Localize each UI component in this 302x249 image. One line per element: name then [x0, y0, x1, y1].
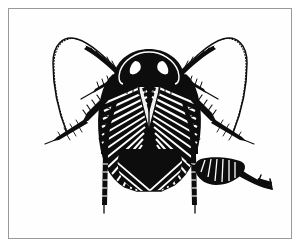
cockroach-illustration	[9, 9, 291, 238]
figure-root: Cockroach dorsal view line illustration	[0, 0, 302, 249]
cockroach-svg	[9, 9, 291, 238]
ootheca	[187, 157, 273, 190]
